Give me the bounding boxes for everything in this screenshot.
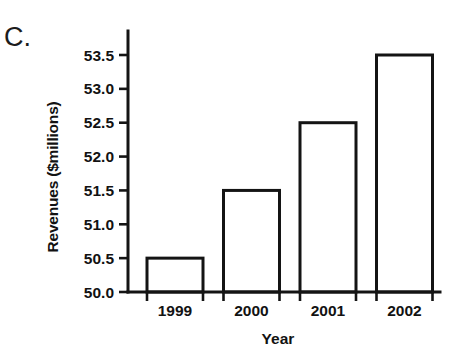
y-tick-label: 52.0 [84,148,114,165]
y-tick-label: 51.5 [84,182,115,199]
y-tick-label: 52.5 [84,114,115,131]
y-tick-label: 50.0 [84,284,114,301]
y-tick-label: 53.5 [84,47,115,64]
x-tick-label: 2000 [234,302,268,319]
bar-chart-plot: 50.050.551.051.552.052.553.053.5 1999200… [0,0,449,363]
y-tick-label: 53.0 [84,80,114,97]
bar-group [147,55,433,292]
x-tick-label: 1999 [158,302,193,319]
bar-2002 [377,55,433,292]
bar-1999 [147,258,203,292]
figure-panel: C. Revenues ($millions) Year 50.050.551.… [0,0,449,363]
y-tick-label: 50.5 [84,250,115,267]
y-tick-label: 51.0 [84,216,114,233]
x-tick-label: 2002 [387,302,421,319]
x-tick-label: 2001 [311,302,346,319]
x-tick-label-group: 1999200020012002 [158,302,422,319]
y-tick-label-group: 50.050.551.051.552.052.553.053.5 [84,47,115,301]
bar-2001 [300,123,356,292]
bar-2000 [224,190,280,292]
